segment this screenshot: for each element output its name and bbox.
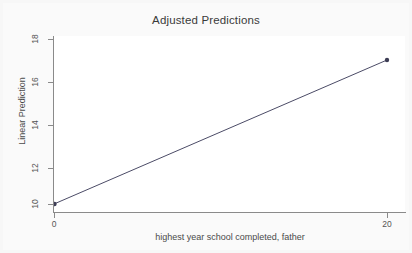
y-tick-mark-14 (48, 125, 53, 126)
graph-region: 18 16 14 12 10 0 20 Linear Prediction hi… (3, 3, 409, 250)
y-tick-label-18: 18 (30, 28, 40, 50)
y-tick-mark-10 (48, 204, 53, 205)
y-tick-label-14: 14 (30, 114, 40, 136)
x-tick-mark-0 (54, 213, 55, 218)
y-tick-mark-12 (48, 168, 53, 169)
y-axis-line (53, 36, 54, 213)
y-tick-label-12: 12 (30, 157, 40, 179)
y-tick-label-16: 16 (30, 71, 40, 93)
y-tick-label-10: 10 (30, 193, 40, 215)
x-tick-label-0: 0 (42, 219, 66, 229)
data-point-marker-20 (385, 58, 389, 62)
prediction-line-svg (54, 36, 405, 212)
x-tick-label-20: 20 (375, 219, 399, 229)
x-axis-title: highest year school completed, father (54, 232, 406, 242)
y-tick-mark-16 (48, 82, 53, 83)
x-tick-mark-20 (387, 213, 388, 218)
plot-area (54, 36, 405, 212)
y-axis-title: Linear Prediction (17, 56, 27, 166)
prediction-line (54, 60, 387, 204)
x-axis-line (54, 212, 406, 213)
y-tick-mark-18 (48, 39, 53, 40)
data-point-marker-0 (54, 202, 57, 206)
chart-title: Adjusted Predictions (0, 14, 412, 26)
chart-screenshot: 18 16 14 12 10 0 20 Linear Prediction hi… (0, 0, 412, 253)
